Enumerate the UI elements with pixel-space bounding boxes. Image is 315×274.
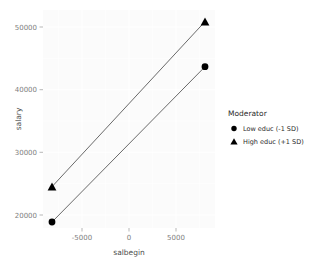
y-axis-ticks: [40, 27, 44, 215]
y-tick-label-50000: 50000: [15, 24, 37, 32]
legend-triangle-marker-icon: [230, 138, 237, 144]
x-axis-title: salbegin: [113, 248, 145, 257]
data-point-low-educ-right: [202, 63, 209, 70]
y-tick-label-20000: 20000: [15, 212, 37, 220]
x-tick-label-0: 0: [127, 234, 131, 242]
legend-title: Moderator: [228, 109, 268, 118]
legend: Moderator Low educ (-1 SD) High educ (+1…: [228, 109, 304, 146]
chart-container: 20000 30000 40000 50000 -5000 0 5000 sal…: [0, 0, 315, 274]
y-tick-label-30000: 30000: [15, 149, 37, 157]
legend-circle-marker-icon: [231, 126, 236, 131]
data-point-low-educ-left: [49, 219, 56, 226]
y-tick-label-40000: 40000: [15, 86, 37, 94]
x-tick-label-neg5000: -5000: [72, 234, 92, 242]
x-axis-ticks: [82, 228, 176, 232]
legend-label-high-educ: High educ (+1 SD): [243, 138, 304, 146]
y-axis-title: salary: [14, 107, 23, 130]
legend-label-low-educ: Low educ (-1 SD): [243, 125, 299, 133]
x-tick-label-5000: 5000: [167, 234, 185, 242]
moderation-plot: 20000 30000 40000 50000 -5000 0 5000 sal…: [0, 0, 315, 274]
